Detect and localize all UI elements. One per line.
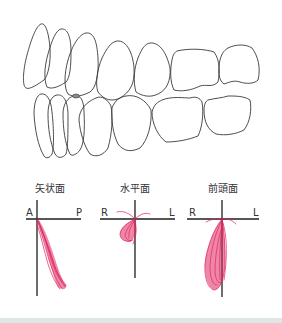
lower-teeth [34, 94, 251, 158]
panel-title-sagittal: 矢状面 [35, 182, 65, 194]
upper-tooth-7 [219, 45, 259, 84]
upper-tooth-6 [171, 49, 220, 91]
axis-label-right: R [101, 207, 108, 218]
panel-title-horizontal: 水平面 [120, 183, 150, 194]
panel-sagittal: 矢状面 A P [26, 182, 82, 296]
footer-strip [0, 318, 282, 323]
contact-mark [73, 94, 80, 98]
teeth-illustration [23, 24, 259, 158]
upper-tooth-4 [97, 41, 135, 100]
axis-label-left: L [253, 207, 259, 218]
upper-tooth-3 [65, 33, 98, 96]
panel-horizontal: 水平面 R L [100, 183, 175, 278]
trace-sagittal [37, 219, 66, 289]
upper-tooth-1 [23, 24, 50, 89]
axis-label-left: L [169, 207, 175, 218]
lower-tooth-7 [204, 96, 251, 135]
lower-tooth-6 [152, 97, 203, 142]
upper-tooth-5 [134, 43, 170, 96]
trace-horizontal [117, 211, 150, 244]
lower-tooth-3 [63, 96, 84, 156]
upper-teeth [23, 24, 259, 100]
axis-label-right: R [189, 207, 196, 218]
panel-frontal: 前頭面 R L [187, 182, 259, 297]
panel-title-frontal: 前頭面 [208, 182, 238, 194]
dental-movement-figure: 矢状面 A P 水平面 R L 前頭面 [0, 0, 282, 323]
lower-tooth-5 [112, 96, 151, 151]
axis-label-posterior: P [76, 207, 82, 218]
axis-label-anterior: A [26, 207, 33, 218]
lower-tooth-1 [34, 94, 54, 158]
trace-frontal [205, 219, 236, 290]
